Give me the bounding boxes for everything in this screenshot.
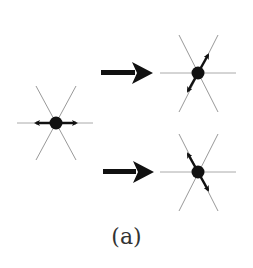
node-initial xyxy=(17,86,93,160)
transition-arrow-bottom-icon xyxy=(103,161,154,183)
node-result-bottom xyxy=(160,134,236,211)
figure-caption: (a) xyxy=(0,224,253,249)
node-dot xyxy=(192,67,205,80)
node-dot xyxy=(192,166,205,179)
transition-arrow-top-icon xyxy=(101,62,153,84)
node-dot xyxy=(50,117,63,130)
node-result-top xyxy=(160,35,236,112)
